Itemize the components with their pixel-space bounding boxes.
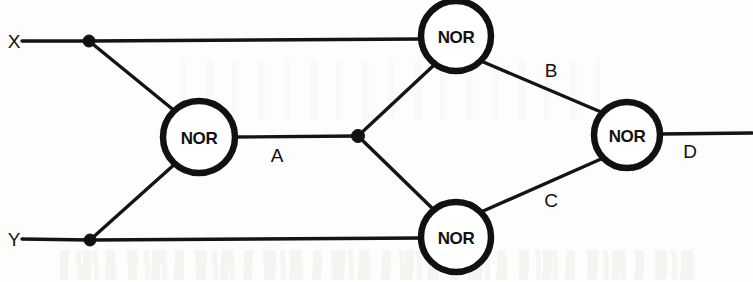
nor-gate-2[interactable]: NOR <box>421 1 491 71</box>
signal-label-b: B <box>545 60 558 81</box>
signal-label-a: A <box>271 145 284 166</box>
circuit-svg-canvas: NOR NOR NOR NOR X Y A B C <box>0 0 753 282</box>
wire-a-to-gate3 <box>358 136 433 209</box>
junction-dot-y <box>84 234 96 246</box>
nor-gate-4[interactable]: NOR <box>594 102 660 168</box>
nor-gate-4-label: NOR <box>609 127 646 146</box>
wire-x-to-gate2 <box>89 39 421 41</box>
signal-label-c: C <box>544 190 558 211</box>
signal-label-d: D <box>683 141 697 162</box>
input-label-y: Y <box>8 229 21 250</box>
nor-gate-3[interactable]: NOR <box>421 202 491 272</box>
input-label-x: X <box>8 31 21 52</box>
wire-gate4-out-d <box>660 133 752 134</box>
nor-gate-1[interactable]: NOR <box>163 101 235 173</box>
wire-gate3-out-c <box>481 159 601 212</box>
wire-gate1-out-a <box>235 136 358 137</box>
wire-y-to-gate3 <box>90 238 424 240</box>
wire-y-input <box>22 239 90 240</box>
junction-dot-a <box>352 130 365 143</box>
nor-gate-3-label: NOR <box>438 229 475 248</box>
logic-circuit-diagram: NOR NOR NOR NOR X Y A B C <box>0 0 753 282</box>
wire-x-to-gate1 <box>89 41 176 112</box>
junction-dot-x <box>83 35 95 47</box>
nor-gate-1-label: NOR <box>181 129 218 148</box>
wire-gate2-out-b <box>481 61 601 112</box>
wire-y-to-gate1 <box>90 163 176 240</box>
wire-a-to-gate2 <box>358 66 433 136</box>
nor-gate-2-label: NOR <box>438 28 475 47</box>
